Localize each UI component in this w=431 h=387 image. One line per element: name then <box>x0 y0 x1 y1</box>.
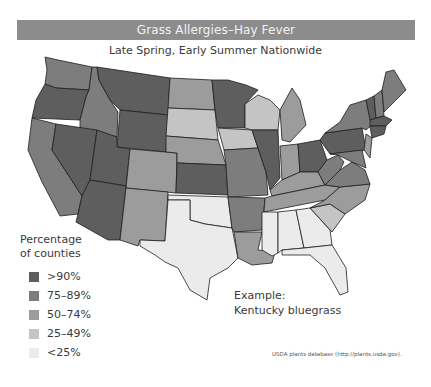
legend-swatch <box>29 272 39 282</box>
legend-item: 25–49% <box>20 324 91 343</box>
state-sd <box>166 108 218 140</box>
state-ks <box>176 163 228 195</box>
legend-title-line1: Percentage <box>20 233 91 247</box>
legend-item: <25% <box>20 343 91 362</box>
legend-swatch <box>29 329 39 339</box>
state-nm <box>120 188 168 246</box>
example-line2: Kentucky bluegrass <box>234 303 341 318</box>
state-wi <box>245 95 280 130</box>
legend-item: 75–89% <box>20 286 91 305</box>
legend-label: 75–89% <box>47 289 91 302</box>
legend-label: 25–49% <box>47 327 91 340</box>
legend-item: >90% <box>20 267 91 286</box>
legend-title: Percentage of counties <box>20 233 91 261</box>
state-wy <box>117 110 168 152</box>
source-credit: USDA plants database (http://plants.usda… <box>272 351 402 357</box>
legend: Percentage of counties >90% 75–89% 50–74… <box>20 233 91 362</box>
state-me <box>382 70 406 112</box>
legend-swatch <box>29 348 39 358</box>
legend-label: <25% <box>47 346 81 359</box>
legend-label: 50–74% <box>47 308 91 321</box>
legend-swatch <box>29 291 39 301</box>
example-line1: Example: <box>234 288 341 303</box>
legend-title-line2: of counties <box>20 247 91 261</box>
state-wa <box>45 57 92 90</box>
state-nd <box>168 78 215 110</box>
state-mi <box>280 88 306 142</box>
legend-label: >90% <box>47 270 81 283</box>
state-co <box>126 149 177 193</box>
state-ia <box>218 128 258 150</box>
state-ar <box>228 197 265 232</box>
state-ny <box>325 100 372 133</box>
legend-swatch <box>29 310 39 320</box>
state-or <box>32 84 89 120</box>
state-ms <box>262 212 278 256</box>
example-caption: Example: Kentucky bluegrass <box>234 288 341 318</box>
legend-item: 50–74% <box>20 305 91 324</box>
state-ct <box>370 126 386 138</box>
state-nj <box>364 134 372 158</box>
